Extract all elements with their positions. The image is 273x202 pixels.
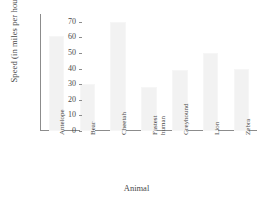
x-tick-label: Bear (90, 122, 98, 135)
plot-area: 010203040506070 (41, 14, 257, 131)
y-tick-label: 20 (68, 95, 76, 104)
x-axis-title: Animal (0, 183, 273, 193)
y-tick-mark (79, 131, 82, 132)
bar-chart: Speed (in miles per hour) Animal 0102030… (0, 0, 273, 202)
x-tick-label: Lion (214, 122, 222, 135)
y-tick-mark (79, 53, 82, 54)
y-tick-mark (79, 84, 82, 85)
y-tick-label: 50 (68, 48, 76, 57)
x-tick-label: Zebra (245, 119, 253, 135)
x-tick-label: Cheetah (121, 112, 129, 135)
y-tick-label: 70 (68, 17, 76, 26)
bar (203, 53, 218, 131)
x-axis-tick-labels: AntelopeBearCheetahFastest humanGreyhoun… (41, 133, 257, 181)
y-tick-mark (79, 69, 82, 70)
y-tick-mark (79, 100, 82, 101)
y-tick-label: 40 (68, 64, 76, 73)
y-tick-label: 60 (68, 32, 76, 41)
y-axis-title: Speed (in miles per hour) (9, 0, 19, 96)
x-tick-label: Greyhound (183, 104, 191, 136)
x-tick-label: Fastest human (152, 116, 167, 135)
y-tick-mark (79, 115, 82, 116)
y-tick-mark (79, 22, 82, 23)
y-tick-label: 30 (68, 79, 76, 88)
y-tick-mark (79, 37, 82, 38)
x-tick-label: Antelope (59, 109, 67, 135)
y-tick-label: 10 (68, 110, 76, 119)
